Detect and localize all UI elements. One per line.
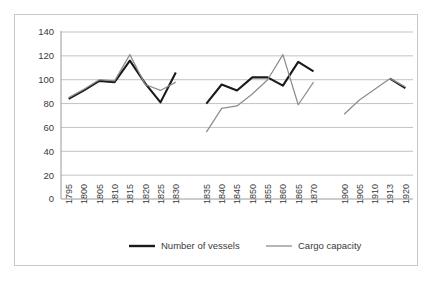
x-tick-label: 1820 xyxy=(141,184,151,204)
x-tick-label: 1920 xyxy=(401,184,411,204)
y-tick-label: 100 xyxy=(38,74,54,85)
y-tick-label: 0 xyxy=(49,193,54,204)
series-group xyxy=(69,55,406,133)
x-tick-label: 1865 xyxy=(294,184,304,204)
x-tick-label: 1825 xyxy=(156,184,166,204)
y-axis-tick-labels: 020406080100120140 xyxy=(38,26,54,204)
gridlines-group xyxy=(61,31,413,199)
x-tick-label: 1870 xyxy=(309,184,319,204)
x-tick-label: 1910 xyxy=(370,184,380,204)
y-tick-label: 40 xyxy=(43,146,54,157)
x-tick-label: 1845 xyxy=(232,184,242,204)
x-tick-label: 1795 xyxy=(64,184,74,204)
y-tick-label: 60 xyxy=(43,122,54,133)
x-tick-label: 1810 xyxy=(110,184,120,204)
y-tick-label: 120 xyxy=(38,50,54,61)
x-tick-label: 1840 xyxy=(217,184,227,204)
y-tick-label: 80 xyxy=(43,98,54,109)
x-tick-label: 1913 xyxy=(385,184,395,204)
y-tick-label: 20 xyxy=(43,170,54,181)
chart-legend: Number of vesselsCargo capacity xyxy=(129,240,362,251)
x-tick-label: 1815 xyxy=(125,184,135,204)
x-tick-label: 1860 xyxy=(278,184,288,204)
series-line-vessels xyxy=(206,62,313,104)
chart-frame: 020406080100120140 179518001805181018151… xyxy=(14,14,418,266)
x-tick-label: 1905 xyxy=(355,184,365,204)
x-tick-label: 1900 xyxy=(340,184,350,204)
x-tick-label: 1850 xyxy=(248,184,258,204)
x-tick-label: 1830 xyxy=(171,184,181,204)
line-chart: 020406080100120140 179518001805181018151… xyxy=(15,15,419,267)
x-tick-label: 1835 xyxy=(202,184,212,204)
y-tick-label: 140 xyxy=(38,26,54,37)
x-tick-label: 1800 xyxy=(79,184,89,204)
x-tick-label: 1805 xyxy=(95,184,105,204)
series-line-cargo xyxy=(344,79,405,115)
x-tick-label: 1855 xyxy=(263,184,273,204)
series-line-cargo xyxy=(206,55,313,133)
x-axis-tick-labels: 1795180018051810181518201825183018351840… xyxy=(64,184,411,204)
legend-label-vessels: Number of vessels xyxy=(161,240,240,251)
legend-label-cargo: Cargo capacity xyxy=(298,240,362,251)
